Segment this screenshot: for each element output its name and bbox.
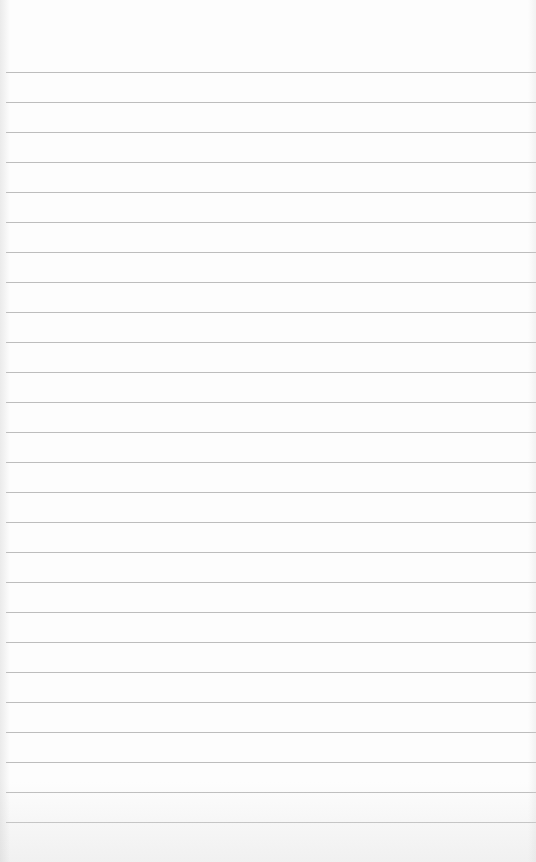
ruled-line: [6, 552, 536, 553]
ruled-line: [6, 222, 536, 223]
ruled-line: [6, 612, 536, 613]
ruled-line: [6, 462, 536, 463]
ruled-line: [6, 582, 536, 583]
ruled-line: [6, 642, 536, 643]
ruled-line: [6, 672, 536, 673]
ruled-line: [6, 432, 536, 433]
ruled-line: [6, 522, 536, 523]
ruled-line: [6, 372, 536, 373]
ruled-line: [6, 732, 536, 733]
ruled-line: [6, 132, 536, 133]
ruled-line: [6, 312, 536, 313]
ruled-line: [6, 762, 536, 763]
ruled-line: [6, 702, 536, 703]
ruled-line: [6, 792, 536, 793]
ruled-line: [6, 822, 536, 823]
ruled-line: [6, 342, 536, 343]
ruled-line: [6, 192, 536, 193]
ruled-line: [6, 402, 536, 403]
ruled-line: [6, 492, 536, 493]
ruled-line: [6, 282, 536, 283]
ruled-line: [6, 72, 536, 73]
ruled-line: [6, 162, 536, 163]
lined-paper: [0, 0, 536, 862]
ruled-line: [6, 252, 536, 253]
ruled-line: [6, 102, 536, 103]
